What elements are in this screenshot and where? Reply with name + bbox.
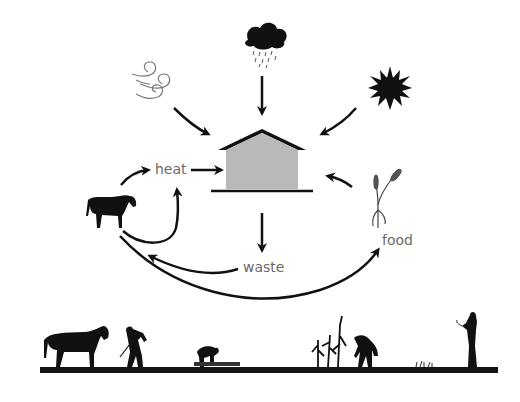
ground-line — [40, 367, 498, 373]
ground-horse-icon — [44, 326, 109, 367]
sun-to-barn-arrow — [322, 108, 356, 134]
food-label: food — [382, 232, 413, 248]
ground-scene — [40, 312, 498, 373]
wind-to-barn-arrow — [174, 108, 208, 134]
wind-icon — [132, 62, 170, 98]
farm-cycle-diagram: heat food waste — [0, 0, 520, 402]
sun-icon — [368, 66, 412, 110]
wheat-icon — [373, 168, 403, 228]
person-harvesting-icon — [354, 335, 378, 367]
food-to-barn-arrow — [328, 176, 352, 187]
barn-icon — [211, 129, 313, 191]
heat-label: heat — [155, 161, 187, 177]
rain-cloud-icon — [245, 23, 287, 68]
small-plants-icon — [416, 361, 432, 367]
man-hoeing-icon — [126, 326, 147, 367]
woman-with-scythe-icon — [462, 312, 477, 367]
corn-stalks-icon — [312, 316, 346, 367]
horse-to-heat-arrow — [121, 170, 148, 185]
waste-label: waste — [243, 259, 284, 275]
horse-icon — [86, 195, 136, 228]
